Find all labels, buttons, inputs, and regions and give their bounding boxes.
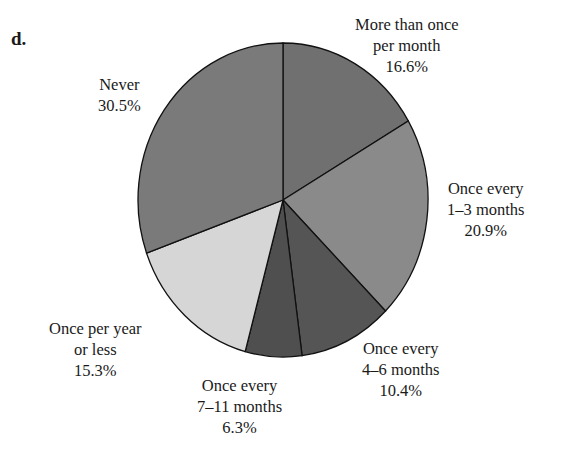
label-line: Once per year: [49, 318, 142, 339]
label-line: Never: [98, 74, 141, 95]
label-percent: 6.3%: [197, 417, 282, 438]
label-percent: 30.5%: [98, 95, 141, 116]
label-line: 7–11 months: [197, 396, 282, 417]
label-never: Never 30.5%: [98, 74, 141, 116]
label-line: 1–3 months: [447, 199, 524, 220]
label-percent: 16.6%: [355, 56, 459, 77]
label-line: Once every: [447, 178, 524, 199]
label-percent: 10.4%: [362, 380, 439, 401]
label-once-every-7-11-months: Once every 7–11 months 6.3%: [197, 375, 282, 438]
label-once-every-4-6-months: Once every 4–6 months 10.4%: [362, 338, 439, 401]
label-line: per month: [355, 35, 459, 56]
label-line: 4–6 months: [362, 359, 439, 380]
label-line: Once every: [362, 338, 439, 359]
label-line: More than once: [355, 14, 459, 35]
label-once-per-year-or-less: Once per year or less 15.3%: [49, 318, 142, 381]
label-line: Once every: [197, 375, 282, 396]
label-percent: 15.3%: [49, 360, 142, 381]
label-percent: 20.9%: [447, 220, 524, 241]
label-once-every-1-3-months: Once every 1–3 months 20.9%: [447, 178, 524, 241]
label-line: or less: [49, 339, 142, 360]
label-more-than-once-per-month: More than once per month 16.6%: [355, 14, 459, 77]
